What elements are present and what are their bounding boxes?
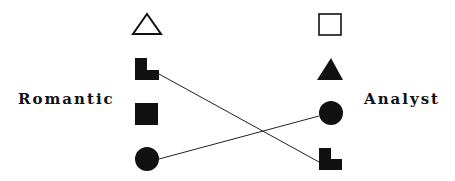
left-triangle-outline-icon [133,14,161,34]
left-l-shape-icon [135,58,159,80]
left-square-filled-icon [135,103,158,125]
left-circle-filled-icon [135,147,159,171]
right-square-outline-icon [319,14,341,35]
right-circle-filled-icon [319,101,343,125]
connection-line-circle [159,116,319,159]
right-l-shape-icon [319,148,342,170]
matching-diagram: Romantic Analyst [0,0,455,181]
romantic-label: Romantic [18,90,115,108]
right-triangle-filled-icon [317,58,343,80]
connection-line-l-shape [159,74,319,162]
analyst-label: Analyst [363,90,440,108]
